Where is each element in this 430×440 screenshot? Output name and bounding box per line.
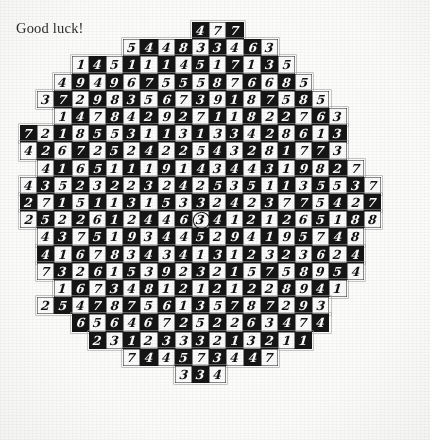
cell-digit: 6 [140,314,157,331]
cell-digit: 4 [158,212,175,229]
cell-digit: 2 [175,263,192,280]
grid-cell: 4 [20,177,37,194]
grid-cell: 3 [123,125,140,142]
cell-digit: 2 [158,177,175,194]
cell-digit: 1 [312,125,329,142]
grid-cell: 5 [312,91,329,108]
cell-digit: 5 [106,57,123,74]
cell-digit: 3 [226,143,243,160]
grid-cell: 7 [72,228,89,245]
grid-row: 7326153923215758954 [37,263,364,280]
grid-cell: 5 [158,74,175,91]
cell-digit: 7 [72,143,89,160]
cell-digit: 3 [175,332,192,349]
grid-cell: 3 [175,366,192,383]
grid-cell: 2 [209,332,226,349]
cell-digit: 1 [192,126,209,143]
grid-cell: 5 [140,297,157,314]
grid-cell: 1 [226,280,243,297]
grid-cell: 2 [243,211,260,228]
cell-digit: 3 [209,125,226,142]
grid-cell: 3 [158,332,175,349]
grid-cell: 9 [158,160,175,177]
cell-digit: 4 [72,108,89,125]
grid-cell: 4 [209,211,226,228]
cell-digit: 7 [261,263,278,280]
cell-digit: 3 [123,246,140,263]
cell-digit: 1 [278,143,295,160]
cell-digit: 5 [72,194,89,211]
cell-digit: 2 [72,91,89,108]
grid-cell: 2 [209,263,226,280]
cell-digit: 7 [226,297,243,314]
cell-digit: 3 [295,246,312,263]
grid-cell: 4 [192,22,209,39]
grid-cell: 6 [72,160,89,177]
cell-digit: 4 [89,56,106,73]
grid-row: 2312333213211 [89,332,313,349]
cell-digit: 3 [192,211,209,228]
cell-digit: 1 [278,160,295,177]
cell-digit: 4 [37,160,54,177]
cell-digit: 9 [295,298,312,315]
grid-cell: 5 [192,314,209,331]
grid-cell: 3 [158,246,175,263]
grid-cell: 7 [295,194,312,211]
grid-cell: 4 [89,74,106,91]
grid-cell: 1 [106,228,123,245]
cell-digit: 6 [158,91,175,108]
grid-cell: 8 [106,246,123,263]
grid-cell: 4 [192,160,209,177]
grid-cell: 3 [261,246,278,263]
grid-cell: 2 [123,142,140,159]
cell-digit: 1 [192,280,209,297]
grid-cell: 3 [347,177,364,194]
cell-digit: 5 [192,142,209,159]
grid-cell: 3 [209,246,226,263]
cell-digit: 4 [140,211,157,228]
cell-digit: 2 [209,280,226,297]
grid-cell: 1 [54,280,71,297]
grid-row: 744573447 [123,349,278,366]
grid-cell: 5 [192,56,209,73]
cell-digit: 8 [312,160,329,177]
grid-cell: 5 [278,263,295,280]
grid-cell: 5 [192,228,209,245]
cell-digit: 2 [209,332,226,349]
grid-cell: 4 [89,56,106,73]
cell-digit: 2 [243,194,260,211]
grid-cell: 3 [54,228,71,245]
grid-cell: 7 [37,263,54,280]
cell-digit: 1 [140,160,157,177]
cell-digit: 1 [54,280,71,297]
cell-digit: 3 [192,39,209,56]
cell-digit: 4 [226,160,243,177]
grid-cell: 7 [209,22,226,39]
cell-digit: 7 [278,194,295,211]
cell-digit: 2 [243,142,260,159]
cell-digit: 5 [123,263,140,280]
cell-digit: 5 [295,228,312,245]
cell-digit: 6 [54,142,71,159]
cell-digit: 2 [140,332,157,349]
grid-cell: 2 [243,142,260,159]
cell-digit: 3 [140,263,157,280]
cell-digit: 6 [72,246,89,263]
grid-cell: 6 [243,74,260,91]
cell-digit: 9 [226,228,243,245]
cell-digit: 7 [295,142,312,159]
grid-cell: 5 [89,125,106,142]
cell-digit: 4 [175,177,192,194]
grid-cell: 6 [295,125,312,142]
grid-cell: 1 [72,56,89,73]
cell-digit: 9 [106,74,123,91]
cell-digit: 3 [209,39,226,56]
cell-digit: 7 [123,349,140,366]
cell-digit: 3 [209,246,226,263]
cell-digit: 6 [261,74,278,91]
grid-cell: 8 [209,74,226,91]
grid-cell: 5 [106,142,123,159]
grid-cell: 1 [175,160,192,177]
cell-digit: 6 [72,314,89,331]
grid-cell: 7 [123,349,140,366]
